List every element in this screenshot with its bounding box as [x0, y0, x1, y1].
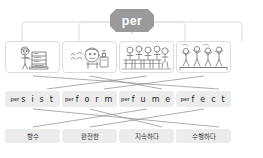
picture-perfect: [119, 41, 174, 73]
meaning-chip-2[interactable]: 완전한: [62, 129, 117, 143]
word-stem: s i s t: [21, 95, 54, 104]
classroom-students-icon: [120, 42, 173, 72]
word-prefix: per: [121, 96, 131, 102]
word-prefix: per: [181, 96, 191, 102]
word-chip-perform[interactable]: per f o r m: [62, 91, 117, 107]
meaning-chip-4[interactable]: 수행하다: [176, 129, 231, 143]
word-chip-perfect[interactable]: per f e c t: [176, 91, 231, 107]
smelling-perfume-icon: [63, 42, 116, 72]
word-chip-perfume[interactable]: per f u m e: [119, 91, 174, 107]
picture-perform: [176, 41, 231, 73]
word-chip-persist[interactable]: per s i s t: [5, 91, 60, 107]
word-stem: f u m e: [132, 95, 172, 104]
word-stem: f o r m: [76, 95, 114, 104]
picture-persist: [5, 41, 60, 73]
meaning-chip-3[interactable]: 지속하다: [119, 129, 174, 143]
word-prefix: per: [65, 96, 75, 102]
picture-perfume: [62, 41, 117, 73]
illustration-row: [0, 41, 263, 74]
studying-child-icon: [6, 42, 59, 72]
word-prefix: per: [10, 96, 20, 102]
meaning-chip-1[interactable]: 향수: [5, 129, 60, 143]
word-row: per s i s t per f o r m per f u m e per …: [0, 91, 263, 108]
meaning-row: 향수 완전한 지속하다 수행하다: [0, 129, 263, 145]
root-prefix-badge: per: [110, 9, 154, 32]
word-stem: f e c t: [192, 95, 227, 104]
stage-performance-icon: [177, 42, 230, 72]
root-prefix-label: per: [122, 14, 142, 28]
word-family-worksheet: per: [0, 0, 263, 158]
